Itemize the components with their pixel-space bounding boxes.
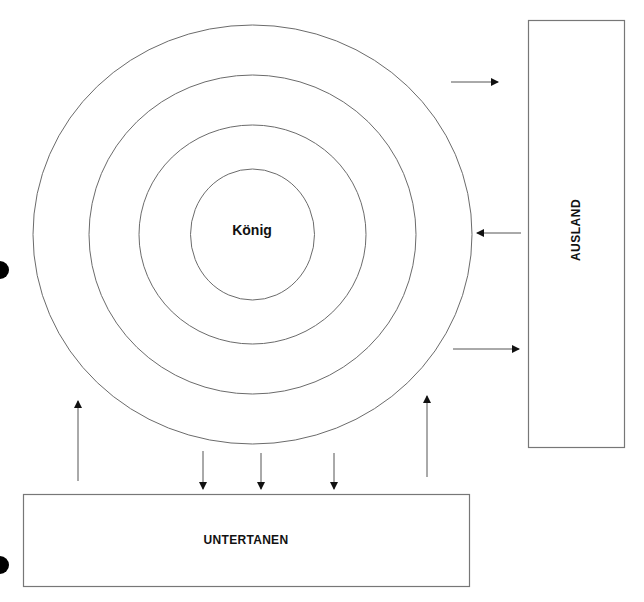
center-label-koenig: König — [232, 222, 272, 238]
untertanen-label: UNTERTANEN — [204, 533, 289, 547]
arrows — [78, 82, 521, 489]
binder-hole-dot-bottom — [0, 556, 9, 574]
ausland-label: AUSLAND — [569, 199, 583, 261]
diagram-canvas — [0, 0, 644, 602]
binder-hole-dot-top — [0, 261, 9, 279]
